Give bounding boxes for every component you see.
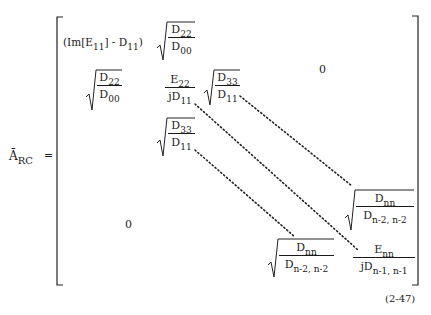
diag-lower	[195, 150, 295, 237]
den: jD	[168, 90, 180, 103]
den: D	[217, 88, 226, 101]
num-sub: 33	[226, 77, 237, 87]
cell-r2c2: E22 jD11	[165, 74, 195, 102]
num-sub: nn	[382, 249, 394, 259]
den-sub: 00	[180, 46, 191, 56]
num: E	[374, 243, 382, 256]
num-sub: 22	[178, 79, 189, 89]
equation-number: (2-47)	[385, 294, 415, 304]
r1c1-mid: ] - D	[104, 36, 127, 48]
cell-r3c2: D33 D11	[168, 120, 195, 148]
num: D	[375, 192, 384, 205]
diag-upper	[240, 96, 352, 186]
cell-rn3: Enn jDn-1, n-1	[353, 244, 415, 272]
den-sub: n-1, n-1	[373, 266, 408, 276]
num-sub: nn	[305, 247, 317, 257]
r1c1-sub2: 11	[127, 42, 138, 52]
num-sub: 22	[180, 29, 191, 39]
den-sub: 00	[108, 94, 119, 104]
r1c1-text: (Im[E	[63, 36, 93, 48]
cell-r2c3: D33 D11	[215, 72, 240, 100]
num: D	[171, 119, 180, 132]
num-sub: nn	[384, 198, 396, 208]
num: D	[171, 23, 180, 36]
den: D	[171, 136, 180, 149]
den-sub: 11	[226, 94, 237, 104]
cell-r1c2: D22 D00	[168, 24, 195, 52]
den-sub: n-2, n-2	[372, 215, 407, 225]
den-sub: 11	[180, 96, 191, 106]
den-sub: n-2, n-2	[293, 264, 328, 274]
num: D	[99, 71, 108, 84]
r1c1-close: )	[139, 36, 143, 48]
num: D	[217, 71, 226, 84]
cell-rn1: Dnn Dn-2, n-2	[356, 193, 414, 221]
den: D	[363, 209, 372, 222]
left-bracket	[57, 17, 63, 285]
cell-rn2: Dnn Dn-2, n-2	[279, 242, 334, 270]
upper-zero: 0	[319, 64, 326, 75]
den-sub: 11	[180, 142, 191, 152]
num-sub: 33	[180, 125, 191, 135]
cell-r2c1: D22 D00	[97, 72, 122, 100]
num: D	[296, 241, 305, 254]
num-sub: 22	[108, 77, 119, 87]
den: D	[99, 88, 108, 101]
cell-r1c1: (Im[E11] - D11)	[63, 37, 143, 48]
den: D	[171, 40, 180, 53]
den: jD	[360, 260, 372, 273]
lower-zero: 0	[125, 219, 132, 230]
r1c1-sub1: 11	[93, 42, 104, 52]
